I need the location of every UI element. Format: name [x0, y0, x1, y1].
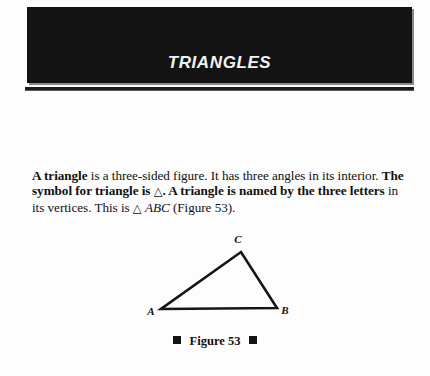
- triangle-name-abc: ABC: [145, 200, 170, 215]
- page-title: TRIANGLES: [27, 54, 412, 72]
- body-paragraph: A triangle is a three-sided figure. It h…: [32, 168, 404, 216]
- caption-square-right-icon: [249, 336, 257, 344]
- term-triangle: A triangle: [32, 168, 88, 183]
- caption-square-left-icon: [173, 336, 181, 344]
- header-banner: TRIANGLES: [27, 7, 412, 83]
- body-line1-rest: is a three-sided figure. It has three an…: [88, 168, 379, 183]
- triangle-symbol-icon-2: △: [133, 201, 142, 215]
- vertex-label-b: B: [280, 304, 288, 316]
- triangle-figure: A B C: [140, 228, 305, 323]
- figure-caption: Figure 53: [0, 334, 430, 348]
- body-line2-part2: . A triangle is named by the three lette…: [162, 183, 384, 198]
- caption-text: Figure 53: [181, 334, 250, 348]
- triangle-shape: [161, 252, 277, 309]
- vertex-label-a: A: [146, 305, 154, 317]
- header-divider: [25, 87, 414, 91]
- vertex-label-c: C: [234, 233, 242, 245]
- body-line3-part2: (Figure 53).: [170, 200, 236, 215]
- triangle-svg: A B C: [140, 228, 305, 323]
